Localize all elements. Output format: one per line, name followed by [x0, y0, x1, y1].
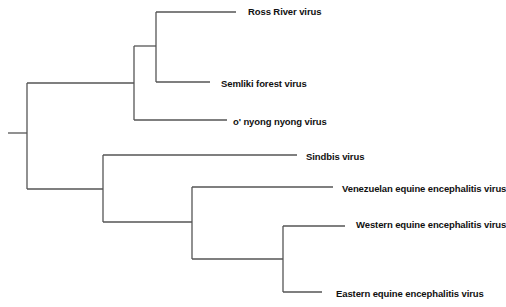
- leaf-label-ross-river: Ross River virus: [248, 7, 321, 17]
- leaf-label-onyong-nyong: o' nyong nyong virus: [233, 117, 327, 127]
- leaf-label-semliki-forest: Semliki forest virus: [221, 79, 307, 89]
- leaf-label-sindbis: Sindbis virus: [306, 152, 364, 162]
- leaf-label-western: Western equine encephalitis virus: [356, 220, 506, 230]
- leaf-label-venezuelan: Venezuelan equine encephalitis virus: [342, 184, 506, 194]
- leaf-label-eastern: Eastern equine encephalitis virus: [336, 289, 484, 299]
